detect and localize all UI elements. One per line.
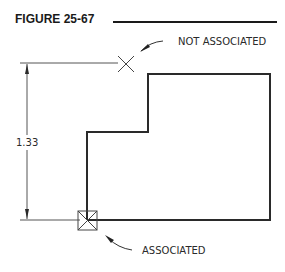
arrowhead-down-icon xyxy=(25,209,29,219)
leader-arrow-icon xyxy=(140,44,150,52)
callout-associated: ASSOCIATED xyxy=(142,245,206,256)
dimension-value: 1.33 xyxy=(16,137,38,148)
object-outline xyxy=(87,74,270,220)
arrowhead-up-icon xyxy=(25,64,29,74)
callout-not-associated: NOT ASSOCIATED xyxy=(178,36,266,47)
cad-drawing: 1.33 NOT ASSOCIATED ASSOCIATED xyxy=(0,0,285,272)
x-marker-icon xyxy=(118,56,134,72)
